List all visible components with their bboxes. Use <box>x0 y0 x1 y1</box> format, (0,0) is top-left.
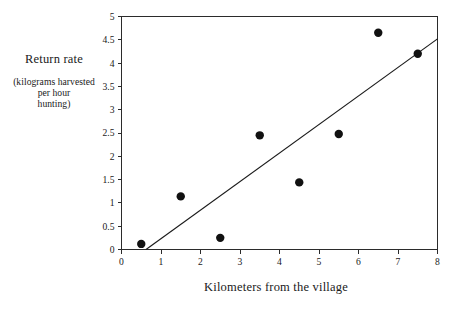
y-tick-label: 2 <box>110 151 115 162</box>
x-tick-label: 6 <box>356 256 361 267</box>
x-tick-label: 8 <box>435 256 440 267</box>
data-point <box>295 178 303 186</box>
axis-frame <box>122 17 438 250</box>
x-axis-ticks: 012345678 <box>119 250 440 267</box>
data-point <box>216 234 224 242</box>
x-tick-label: 5 <box>317 256 322 267</box>
data-point <box>177 192 185 200</box>
y-tick-label: 3 <box>110 104 115 115</box>
x-tick-label: 4 <box>277 256 282 267</box>
y-tick-label: 0.5 <box>103 221 115 232</box>
plot-frame <box>122 17 438 250</box>
data-point <box>137 240 145 248</box>
data-points <box>137 29 422 248</box>
x-tick-label: 1 <box>159 256 164 267</box>
y-tick-label: 2.5 <box>103 127 115 138</box>
y-tick-label: 1 <box>110 197 115 208</box>
x-tick-label: 0 <box>119 256 124 267</box>
scatter-plot-figure: Return rate (kilograms harvested per hou… <box>0 0 453 309</box>
data-point <box>335 130 343 138</box>
y-tick-label: 5 <box>110 11 115 22</box>
y-tick-label: 4.5 <box>103 34 115 45</box>
plot-area: 012345678 00.511.522.533.544.55 <box>0 0 453 309</box>
data-point <box>374 29 382 37</box>
data-point <box>256 131 264 139</box>
y-tick-label: 4 <box>110 58 115 69</box>
x-tick-label: 3 <box>238 256 243 267</box>
x-tick-label: 2 <box>198 256 203 267</box>
y-tick-label: 0 <box>110 244 115 255</box>
y-tick-label: 1.5 <box>103 174 115 185</box>
y-tick-label: 3.5 <box>103 81 115 92</box>
y-axis-ticks: 00.511.522.533.544.55 <box>103 11 122 255</box>
regression-line <box>146 39 438 250</box>
trend-line <box>146 39 438 250</box>
data-point <box>414 50 422 58</box>
x-tick-label: 7 <box>396 256 401 267</box>
